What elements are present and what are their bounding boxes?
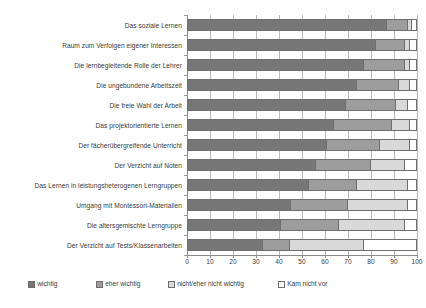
bar-track bbox=[187, 135, 417, 155]
y-tick bbox=[184, 95, 188, 96]
bar-row: Raum zum Verfolgen eigener Interessen bbox=[0, 35, 426, 55]
y-tick bbox=[184, 115, 188, 116]
bar-segment-nicht-eher-nicht-wichtig bbox=[348, 199, 408, 211]
stacked-bar bbox=[187, 79, 417, 91]
stacked-bar bbox=[187, 239, 417, 251]
legend-swatch-icon bbox=[168, 281, 175, 288]
x-tick-100 bbox=[417, 255, 418, 258]
bar-segment-wichtig bbox=[187, 179, 309, 191]
legend-item-4[interactable]: Kam nicht vor bbox=[278, 280, 328, 288]
x-tick-70 bbox=[348, 255, 349, 258]
bar-segment-kam-nicht-vor bbox=[410, 119, 417, 131]
category-label: Die lernbegleitende Rolle der Lehrer bbox=[0, 62, 187, 69]
stacked-bar bbox=[187, 199, 417, 211]
bar-row: Die lernbegleitende Rolle der Lehrer bbox=[0, 55, 426, 75]
legend-label: eher wichtig bbox=[105, 280, 140, 288]
category-label: Das soziale Lernen bbox=[0, 22, 187, 29]
legend-item-3[interactable]: nicht/eher nicht wichtig bbox=[168, 280, 244, 288]
bar-segment-nicht-eher-nicht-wichtig bbox=[371, 159, 406, 171]
bar-row: Der Verzicht auf Noten bbox=[0, 155, 426, 175]
category-label: Das projektorientierte Lernen bbox=[0, 122, 187, 129]
y-tick bbox=[184, 75, 188, 76]
category-label: Der Verzicht auf Tests/Klassenarbeiten bbox=[0, 242, 187, 249]
x-axis-tick-labels: 0102030405060708090100 bbox=[0, 258, 426, 270]
x-tick-10 bbox=[210, 255, 211, 258]
bar-segment-eher-wichtig bbox=[281, 219, 339, 231]
x-tick-80 bbox=[371, 255, 372, 258]
stacked-bar bbox=[187, 19, 417, 31]
x-tick-label-0: 0 bbox=[185, 258, 189, 266]
bar-row: Das soziale Lernen bbox=[0, 15, 426, 35]
x-tick-label-90: 90 bbox=[390, 258, 397, 266]
bar-row: Der fächerübergreifende Unterricht bbox=[0, 135, 426, 155]
bar-segment-nicht-eher-nicht-wichtig bbox=[339, 219, 406, 231]
x-tick-0 bbox=[187, 255, 188, 258]
bar-segment-eher-wichtig bbox=[316, 159, 371, 171]
category-label: Umgang mit Montessori-Materialien bbox=[0, 202, 187, 209]
legend-swatch-icon bbox=[278, 281, 285, 288]
bar-segment-eher-wichtig bbox=[334, 119, 392, 131]
bar-segment-wichtig bbox=[187, 119, 334, 131]
stacked-bar bbox=[187, 99, 417, 111]
y-tick bbox=[184, 235, 188, 236]
stacked-bar-chart: Das soziale LernenRaum zum Verfolgen eig… bbox=[0, 0, 426, 308]
x-tick-label-20: 20 bbox=[229, 258, 236, 266]
bar-track bbox=[187, 175, 417, 195]
bar-segment-kam-nicht-vor bbox=[412, 19, 417, 31]
y-tick bbox=[184, 255, 188, 256]
bar-track bbox=[187, 15, 417, 35]
bar-track bbox=[187, 75, 417, 95]
x-tick-30 bbox=[256, 255, 257, 258]
x-tick-90 bbox=[394, 255, 395, 258]
x-tick-label-10: 10 bbox=[206, 258, 213, 266]
category-label: Das Lernen in leistungsheterogenen Lerng… bbox=[0, 182, 187, 189]
y-tick bbox=[184, 55, 188, 56]
bar-segment-kam-nicht-vor bbox=[408, 199, 417, 211]
legend-item-2[interactable]: eher wichtig bbox=[96, 280, 140, 288]
stacked-bar bbox=[187, 139, 417, 151]
bar-segment-wichtig bbox=[187, 139, 327, 151]
category-label: Die freie Wahl der Arbeit bbox=[0, 102, 187, 109]
y-tick bbox=[184, 15, 188, 16]
bar-segment-kam-nicht-vor bbox=[410, 139, 417, 151]
bar-segment-kam-nicht-vor bbox=[408, 179, 417, 191]
stacked-bar bbox=[187, 39, 417, 51]
bar-track bbox=[187, 95, 417, 115]
x-tick-40 bbox=[279, 255, 280, 258]
bar-rows: Das soziale LernenRaum zum Verfolgen eig… bbox=[0, 15, 426, 255]
bar-track bbox=[187, 215, 417, 235]
bar-track bbox=[187, 55, 417, 75]
bar-segment-kam-nicht-vor bbox=[405, 219, 417, 231]
category-label: Der Verzicht auf Noten bbox=[0, 162, 187, 169]
x-tick-50 bbox=[302, 255, 303, 258]
x-tick-label-60: 60 bbox=[321, 258, 328, 266]
legend-label: Kam nicht vor bbox=[287, 280, 327, 288]
bar-track bbox=[187, 155, 417, 175]
category-label: Die altersgemischte Lerngruppe bbox=[0, 222, 187, 229]
stacked-bar bbox=[187, 159, 417, 171]
stacked-bar bbox=[187, 179, 417, 191]
bar-track bbox=[187, 235, 417, 255]
bar-segment-nicht-eher-nicht-wichtig bbox=[396, 99, 408, 111]
plot-area: Das soziale LernenRaum zum Verfolgen eig… bbox=[0, 0, 426, 262]
bar-segment-nicht-eher-nicht-wichtig bbox=[392, 119, 410, 131]
bar-segment-nicht-eher-nicht-wichtig bbox=[290, 239, 364, 251]
bar-segment-eher-wichtig bbox=[309, 179, 357, 191]
bar-segment-eher-wichtig bbox=[357, 79, 398, 91]
bar-row: Das projektorientierte Lernen bbox=[0, 115, 426, 135]
bar-row: Die freie Wahl der Arbeit bbox=[0, 95, 426, 115]
bar-segment-kam-nicht-vor bbox=[410, 39, 417, 51]
x-tick-label-80: 80 bbox=[367, 258, 374, 266]
legend-label: nicht/eher nicht wichtig bbox=[177, 280, 244, 288]
bar-segment-kam-nicht-vor bbox=[408, 99, 417, 111]
x-tick-20 bbox=[233, 255, 234, 258]
x-tick-label-100: 100 bbox=[411, 258, 422, 266]
bar-segment-eher-wichtig bbox=[327, 139, 380, 151]
bar-segment-wichtig bbox=[187, 159, 316, 171]
x-tick-label-30: 30 bbox=[252, 258, 259, 266]
y-tick bbox=[184, 195, 188, 196]
bar-segment-wichtig bbox=[187, 39, 376, 51]
bar-row: Das Lernen in leistungsheterogenen Lerng… bbox=[0, 175, 426, 195]
category-label: Die ungebundene Arbeitszeit bbox=[0, 82, 187, 89]
legend-item-1[interactable]: wichtig bbox=[28, 280, 57, 288]
